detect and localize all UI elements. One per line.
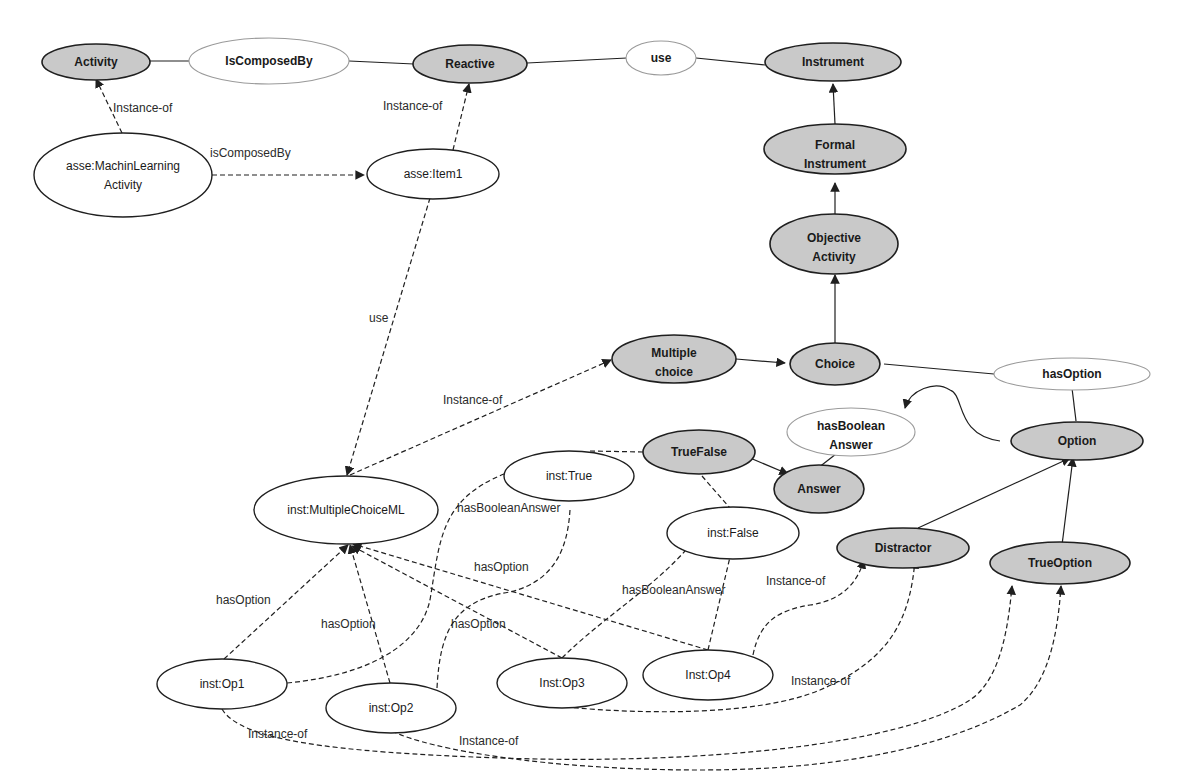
ontology-diagram: Instance-of Instance-of isComposedBy use… — [0, 0, 1179, 782]
edge-item1-instanceof-reactive — [453, 84, 469, 150]
edge-op3-hasoption — [352, 546, 562, 658]
node-is-composed-by-label: IsComposedBy — [225, 54, 313, 68]
edge-label-op1-instance-of: Instance-of — [248, 727, 308, 741]
node-has-boolean-answer-relation[interactable]: hasBoolean Answer — [787, 408, 915, 456]
edge-multiple-to-choice — [736, 359, 785, 363]
edge-label-reactive-instance-of: Instance-of — [383, 99, 443, 113]
edge-label-op4-instance-of: Instance-of — [766, 574, 826, 588]
edge-label-op3-has-option: hasOption — [451, 617, 506, 631]
edge-choice-hasoption — [884, 364, 994, 374]
node-has-boolean-answer-label-2: Answer — [829, 438, 873, 452]
node-op3[interactable]: Inst:Op3 — [497, 658, 627, 708]
edge-distractor-option — [918, 458, 1070, 528]
node-use-relation[interactable]: use — [626, 41, 696, 75]
node-inst-false[interactable]: inst:False — [667, 507, 799, 559]
node-item1[interactable]: asse:Item1 — [367, 149, 499, 199]
node-ml-activity[interactable]: asse:MachinLearning Activity — [34, 133, 212, 217]
node-choice-label: Choice — [815, 357, 855, 371]
node-activity-label: Activity — [74, 55, 118, 69]
node-instrument-label: Instrument — [802, 55, 864, 69]
edge-op4-hasoption — [353, 544, 708, 650]
edge-reactive-use — [527, 58, 627, 63]
node-objective-activity[interactable]: Objective Activity — [770, 214, 898, 274]
node-answer-label: Answer — [797, 482, 841, 496]
node-ml-activity-label-1: asse:MachinLearning — [66, 159, 180, 173]
edge-label-true-has-boolean-answer: hasBooleanAnswer — [457, 501, 560, 515]
node-ml-activity-label-2: Activity — [104, 178, 142, 192]
node-true-option[interactable]: TrueOption — [990, 542, 1130, 584]
node-op1-label: inst:Op1 — [200, 677, 245, 691]
node-choice[interactable]: Choice — [790, 343, 880, 385]
node-op3-label: Inst:Op3 — [539, 676, 585, 690]
node-reactive-label: Reactive — [445, 57, 495, 71]
edge-label-is-composed-by: isComposedBy — [210, 146, 291, 160]
node-inst-true-label: inst:True — [546, 469, 593, 483]
node-multiple-choice-ml-label: inst:MultipleChoiceML — [287, 503, 405, 517]
node-multiple-choice-ml[interactable]: inst:MultipleChoiceML — [254, 476, 438, 544]
edge-labels: Instance-of Instance-of isComposedBy use… — [113, 99, 851, 748]
node-answer[interactable]: Answer — [774, 465, 864, 513]
node-inst-true[interactable]: inst:True — [504, 451, 634, 501]
node-formal-instrument-label-2: Instrument — [804, 157, 866, 171]
node-objective-activity-label-1: Objective — [807, 231, 861, 245]
node-distractor[interactable]: Distractor — [837, 528, 969, 568]
node-true-option-label: TrueOption — [1028, 556, 1092, 570]
edge-label-multiple-choice-instance-of: Instance-of — [443, 393, 503, 407]
node-instrument[interactable]: Instrument — [765, 43, 901, 81]
node-reactive[interactable]: Reactive — [413, 45, 527, 83]
edge-op2-hasoption — [350, 545, 390, 683]
node-op2-label: inst:Op2 — [369, 701, 414, 715]
node-multiple-choice-label-2: choice — [655, 365, 693, 379]
edge-op4-hasbooleananswer-false — [708, 557, 730, 650]
node-objective-activity-label-2: Activity — [812, 250, 856, 264]
node-distractor-label: Distractor — [875, 541, 932, 555]
node-multiple-choice-label-1: Multiple — [651, 346, 697, 360]
edge-true-truefalse — [590, 451, 643, 452]
node-is-composed-by-relation[interactable]: IsComposedBy — [189, 38, 349, 84]
node-op4[interactable]: Inst:Op4 — [643, 650, 773, 700]
edge-label-has-option-curve: hasOption — [474, 560, 529, 574]
node-formal-instrument-label-1: Formal — [815, 138, 855, 152]
node-has-option-relation[interactable]: hasOption — [994, 358, 1150, 390]
edge-use-instrument — [696, 58, 765, 65]
edge-option-hasbooleananswer — [905, 386, 1000, 441]
node-op1[interactable]: inst:Op1 — [157, 659, 287, 709]
edge-label-use: use — [369, 311, 389, 325]
node-op4-label: Inst:Op4 — [685, 668, 731, 682]
node-true-false-label: TrueFalse — [671, 445, 727, 459]
edge-label-op2-instance-of: Instance-of — [459, 734, 519, 748]
node-option-label: Option — [1058, 434, 1097, 448]
node-activity[interactable]: Activity — [42, 44, 150, 80]
node-use-label: use — [651, 51, 672, 65]
node-formal-instrument[interactable]: Formal Instrument — [764, 124, 906, 174]
node-option[interactable]: Option — [1011, 422, 1143, 460]
edge-item1-use-multiplechoiceml — [347, 198, 430, 475]
edge-label-op1-has-option: hasOption — [216, 593, 271, 607]
node-has-option-label: hasOption — [1042, 367, 1101, 381]
node-item1-label: asse:Item1 — [404, 167, 463, 181]
edge-truefalse-false — [702, 476, 730, 508]
edge-label-op2-has-option: hasOption — [321, 617, 376, 631]
node-inst-false-label: inst:False — [707, 526, 759, 540]
nodes: Activity IsComposedBy Reactive use Instr… — [34, 38, 1150, 733]
node-true-false[interactable]: TrueFalse — [643, 430, 755, 474]
edge-trueoption-option — [1062, 458, 1073, 545]
edge-op3-hasbooleananswer-false — [562, 551, 685, 658]
edge-label-op3-instance-of: Instance-of — [791, 674, 851, 688]
edge-label-activity-instance-of: Instance-of — [113, 101, 173, 115]
edge-label-false-has-boolean-answer: hasBooleanAnswer — [622, 583, 725, 597]
edge-iscomposedby-reactive — [349, 61, 414, 64]
node-has-boolean-answer-label-1: hasBoolean — [817, 419, 885, 433]
node-multiple-choice[interactable]: Multiple choice — [612, 335, 736, 383]
node-op2[interactable]: inst:Op2 — [326, 683, 456, 733]
edge-formal-to-instrument — [833, 84, 835, 124]
edge-hasoption-option — [1072, 388, 1076, 421]
